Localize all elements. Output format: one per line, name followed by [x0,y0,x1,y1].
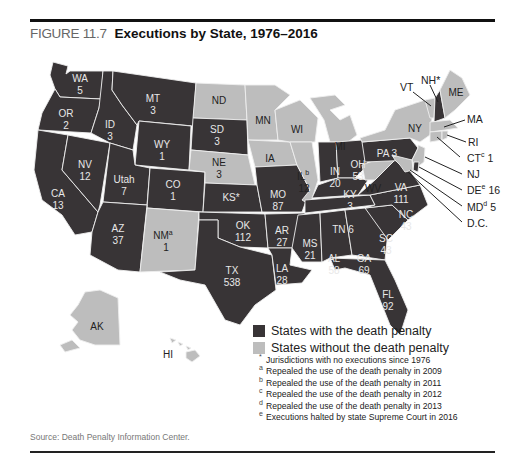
label-AR: AR [275,225,289,236]
callout-RI: RI [468,136,479,148]
label-NC: NC [399,209,413,220]
label-NV: NV [78,159,92,170]
label-CA: CA [51,188,65,199]
callout-DE: DEe16 [467,183,500,196]
label-HI: HI [163,349,173,360]
legend-label-without: States without the death penalty [271,341,449,355]
leader-RI [447,135,466,142]
callout-NJ: NJ [467,168,480,180]
state-MA [430,120,458,132]
label-IN: IN [330,166,340,177]
label-ND: ND [212,95,226,106]
callout-MA: MA [467,113,483,125]
label-NY: NY [408,123,422,134]
value-WY: 1 [159,151,165,162]
state-NM [140,208,199,272]
legend-item-without: States without the death penalty [253,339,449,356]
value-OH: 53 [352,171,364,182]
label-AL: AL [328,253,341,264]
label-AK: AK [90,321,104,332]
value-KY: 3 [347,201,353,212]
callout-NH: NH* [421,74,440,86]
footnote: eExecutions halted by state Supreme Cour… [259,412,458,423]
value-OK: 112 [235,232,251,243]
value-CO: 1 [170,191,176,202]
footnote: aRepealed the use of the death penalty i… [259,366,458,377]
value-WA: 5 [77,85,83,96]
label-FL: FL [382,289,394,300]
callout-CT: CTc1 [467,151,494,164]
value-OR: 2 [63,120,69,131]
value-VA: 111 [393,194,409,205]
callout-VT: VT [400,81,414,93]
leader-DE [419,167,462,190]
leader-NJ [425,157,462,174]
label-SC: SC [379,233,393,244]
value-MT: 3 [150,105,156,116]
label-TN: TN 6 [332,224,354,235]
label-MS: MS [303,238,318,249]
label-KY: KY [343,189,357,200]
legend: States with the death penalty States wit… [253,322,449,356]
value-TX: 538 [224,277,241,288]
value-AL: 58 [328,265,340,276]
value-MO: 87 [272,201,284,212]
value-UT: 7 [121,186,127,197]
state-WI [275,100,318,142]
label-SD: SD [210,124,224,135]
footnote: bRepealed the use of the death penalty i… [259,378,458,389]
value-AZ: 37 [112,235,124,246]
value-NV: 12 [79,171,91,182]
value-NC: 43 [400,221,412,232]
value-SD: 3 [214,136,220,147]
legend-item-with: States with the death penalty [253,322,449,339]
label-ID: ID [105,119,115,130]
footnote: *Jurisdictions with no executions since … [259,355,458,366]
label-ME: ME [449,87,464,98]
label-PA: PA 3 [377,148,398,159]
label-OK: OK [236,220,251,231]
label-OH: OH [351,159,366,170]
label-WA: WA [72,73,88,84]
footnotes: *Jurisdictions with no executions since … [259,355,458,423]
callout-MD: MDd5 [467,200,496,213]
value-SC: 43 [380,245,392,256]
label-GA: GA [357,253,372,264]
label-KS: KS* [222,192,239,203]
value-IN: 20 [329,178,341,189]
value-MS: 21 [304,250,316,261]
state-HI [170,338,200,362]
label-LA: LA [276,263,289,274]
value-LA: 28 [276,275,288,286]
value-CA: 13 [52,200,64,211]
label-UT: Utah [113,174,134,185]
label-CO: CO [166,179,181,190]
value-FL: 92 [382,301,394,312]
label-MO: MO [270,189,286,200]
label-NE: NE [212,157,226,168]
label-WY: WY [154,139,170,150]
swatch-dark [253,325,265,337]
label-TX: TX [226,265,239,276]
value-IL: 12 [298,183,310,194]
bottom-rule [30,451,495,453]
label-MI: MI [334,141,345,152]
callout-DC: D.C. [467,217,488,229]
label-VA: VA [395,182,408,193]
source-note: Source: Death Penalty Information Center… [30,432,190,442]
leader-CT [437,137,460,157]
label-AZ: AZ [112,223,125,234]
value-NE: 3 [216,169,222,180]
footnote: cRepealed the use of the death penalty i… [259,389,458,400]
value-GA: 69 [358,265,370,276]
label-MN: MN [255,115,271,126]
label-WI: WI [291,124,303,135]
value-AR: 27 [276,237,288,248]
state-NY [360,100,432,142]
state-CO [147,168,205,212]
footnote: dRepealed the use of the death penalty i… [259,401,458,412]
legend-label-with: States with the death penalty [271,324,432,338]
state-DE [413,162,419,172]
label-MT: MT [146,93,160,104]
value-NM: 1 [163,242,169,253]
